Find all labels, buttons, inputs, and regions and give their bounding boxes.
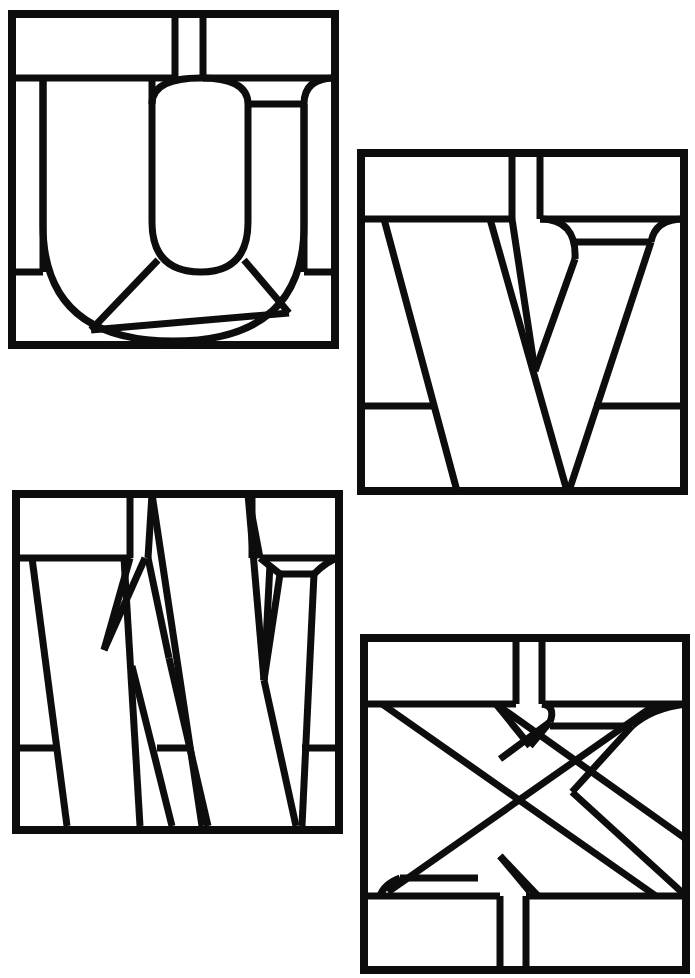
- panel-letter-u: [8, 10, 339, 349]
- letter-w-artwork: [12, 490, 343, 834]
- panel-letter-w: [12, 490, 343, 834]
- panel-letter-x: [360, 634, 690, 974]
- letter-u-artwork: [8, 10, 339, 349]
- letter-v-artwork: [357, 149, 688, 495]
- pattern-sheet: [0, 0, 695, 978]
- panel-letter-v: [357, 149, 688, 495]
- letter-x-artwork: [360, 634, 690, 974]
